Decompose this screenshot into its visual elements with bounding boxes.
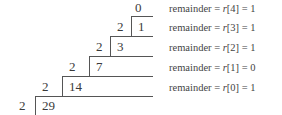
remainder-index: [2] <box>227 42 239 53</box>
divisor: 2 <box>19 99 26 113</box>
divisor: 2 <box>117 20 124 34</box>
remainder-label: remainder = <box>169 3 223 14</box>
division-bracket-vertical <box>131 16 132 36</box>
remainder-label: remainder = <box>169 42 223 53</box>
dividend: 7 <box>96 60 103 74</box>
remainder-value: = 1 <box>239 82 255 93</box>
division-bracket-horizontal <box>35 96 153 97</box>
remainder-label: remainder = <box>169 82 223 93</box>
divisor: 2 <box>96 40 103 54</box>
remainder-value: = 1 <box>239 22 255 33</box>
remainder-index: [0] <box>227 82 239 93</box>
division-bracket-vertical <box>62 76 63 96</box>
divisor: 2 <box>42 80 49 94</box>
remainder-index: [4] <box>227 3 239 14</box>
remainder-row: remainder = r[0] = 1 <box>169 82 256 94</box>
remainder-value: = 1 <box>239 42 255 53</box>
remainder-row: remainder = r[1] = 0 <box>169 62 256 74</box>
division-bracket-horizontal <box>110 36 153 37</box>
remainder-value: = 0 <box>239 62 255 73</box>
remainder-row: remainder = r[4] = 1 <box>169 3 256 15</box>
remainder-value: = 1 <box>239 3 255 14</box>
remainder-index: [3] <box>227 22 239 33</box>
division-bracket-vertical <box>110 36 111 56</box>
remainder-row: remainder = r[3] = 1 <box>169 22 256 34</box>
remainder-index: [1] <box>227 62 239 73</box>
divisor: 2 <box>69 60 76 74</box>
final-quotient: 0 <box>135 1 142 15</box>
division-bracket-horizontal <box>62 76 153 77</box>
dividend: 14 <box>69 80 82 94</box>
division-bracket-vertical <box>89 56 90 76</box>
dividend: 1 <box>138 20 145 34</box>
division-bracket-horizontal <box>89 56 153 57</box>
remainder-label: remainder = <box>169 62 223 73</box>
remainder-label: remainder = <box>169 22 223 33</box>
dividend: 29 <box>42 99 55 113</box>
division-bracket-horizontal <box>131 16 153 17</box>
dividend: 3 <box>117 40 124 54</box>
remainder-row: remainder = r[2] = 1 <box>169 42 256 54</box>
division-bracket-vertical <box>35 96 36 115</box>
